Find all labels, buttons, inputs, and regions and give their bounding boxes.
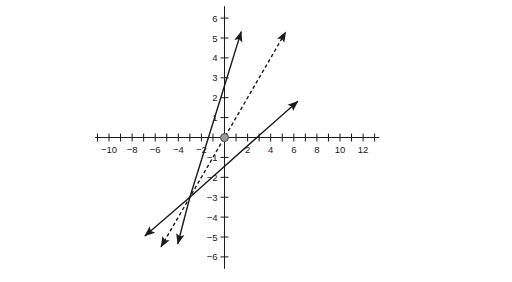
y-tick-label: −3 (207, 192, 218, 203)
x-tick-label: −4 (173, 144, 184, 155)
y-tick-label: 4 (212, 52, 217, 63)
annotation-markers-group (221, 134, 229, 142)
coordinate-plane-figure: −10−8−6−4−224681012654321−1−2−3−4−5−6 (0, 0, 512, 282)
y-tick-label: 2 (212, 92, 217, 103)
y-tick-label: −6 (207, 251, 218, 262)
y-tick-label: −1 (207, 152, 218, 163)
y-tick-label: 6 (212, 13, 217, 24)
graph-canvas: −10−8−6−4−224681012654321−1−2−3−4−5−6 (0, 0, 512, 282)
x-tick-label: 6 (291, 144, 296, 155)
x-tick-label: −6 (150, 144, 161, 155)
x-tick-label: 8 (314, 144, 319, 155)
y-tick-label: 3 (212, 72, 217, 83)
x-tick-label: 12 (358, 144, 369, 155)
x-tick-label: −10 (101, 144, 117, 155)
y-tick-label: −5 (207, 232, 218, 243)
shallow-solid-line (145, 101, 298, 236)
y-tick-label: 5 (212, 33, 217, 44)
x-tick-label: −8 (127, 144, 138, 155)
x-tick-label: 10 (335, 144, 346, 155)
origin-point (221, 134, 229, 142)
y-tick-label: −4 (207, 212, 218, 223)
x-tick-label: 4 (268, 144, 273, 155)
